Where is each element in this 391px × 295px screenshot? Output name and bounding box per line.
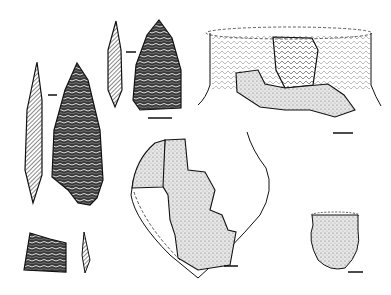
large-point (25, 62, 103, 205)
large-point-face (52, 63, 103, 205)
decorated-vessel (198, 27, 381, 133)
small-bowl (311, 212, 363, 272)
sherd-stack (162, 139, 236, 270)
fragment-profile (82, 232, 90, 273)
fragment-face (24, 233, 66, 272)
conical-vessel (131, 132, 269, 278)
large-point-profile (25, 62, 42, 203)
fragment (24, 232, 90, 273)
small-point-face (133, 20, 181, 110)
bowl-body (311, 215, 359, 269)
small-point (108, 20, 181, 118)
small-point-profile (108, 21, 122, 107)
sherd-upper-left (132, 140, 165, 188)
artifact-plate (0, 0, 391, 295)
